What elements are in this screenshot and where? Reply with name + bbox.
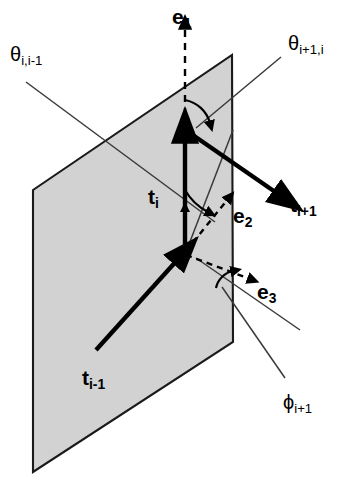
vector-geometry-diagram: θi,i-1 θi+1,i e1 e2 e3 ti ti+1 ti-1 ϕi+1 xyxy=(0,0,352,493)
label-phi-ip1: ϕi+1 xyxy=(283,392,312,412)
diagram-canvas xyxy=(0,0,352,493)
label-t-ip1: ti+1 xyxy=(290,194,317,215)
label-e3: e3 xyxy=(257,281,276,302)
label-t-i: ti xyxy=(148,186,159,207)
label-theta-i-im1: θi,i-1 xyxy=(10,44,42,64)
label-theta-ip1-i: θi+1,i xyxy=(288,33,324,53)
label-e2: e2 xyxy=(233,205,252,226)
label-t-im1: ti-1 xyxy=(82,367,105,388)
label-e1: e1 xyxy=(172,6,191,27)
